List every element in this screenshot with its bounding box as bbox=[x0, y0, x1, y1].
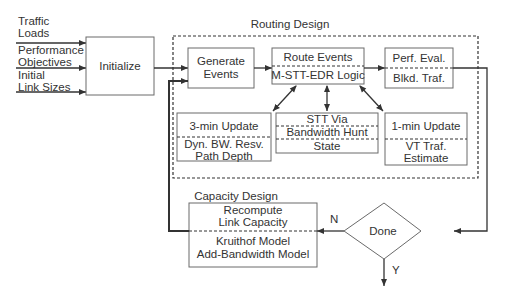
one-min-update-box: 1-min Update VT Traf. Estimate bbox=[385, 113, 467, 165]
svg-text:Link Capacity: Link Capacity bbox=[218, 216, 287, 228]
svg-text:Routing Design: Routing Design bbox=[251, 18, 330, 30]
svg-text:Generate: Generate bbox=[197, 55, 245, 67]
svg-text:Initialize: Initialize bbox=[99, 60, 141, 72]
svg-text:M-STT-EDR Logic: M-STT-EDR Logic bbox=[271, 69, 365, 81]
perf-eval-box: Perf. Eval. Blkd. Traf. bbox=[385, 48, 453, 88]
svg-text:VT Traf.: VT Traf. bbox=[406, 140, 447, 152]
svg-text:Loads: Loads bbox=[18, 27, 50, 39]
initialize-box: Initialize bbox=[86, 37, 154, 95]
svg-text:Dyn. BW. Resv.: Dyn. BW. Resv. bbox=[184, 138, 264, 150]
svg-text:Kruithof Model: Kruithof Model bbox=[216, 235, 290, 247]
svg-text:Capacity Design: Capacity Design bbox=[194, 190, 278, 202]
svg-text:Estimate: Estimate bbox=[404, 152, 449, 164]
input-performance-objectives: Performance Objectives bbox=[16, 44, 86, 68]
arrow-route-3min bbox=[273, 86, 296, 111]
svg-text:Done: Done bbox=[369, 225, 397, 237]
svg-text:Path Depth: Path Depth bbox=[195, 150, 253, 162]
svg-text:Route Events: Route Events bbox=[283, 51, 352, 63]
svg-text:Events: Events bbox=[203, 68, 238, 80]
svg-text:Objectives: Objectives bbox=[18, 56, 72, 68]
input-initial-link-sizes: Initial Link Sizes bbox=[16, 69, 86, 93]
svg-text:Initial: Initial bbox=[18, 69, 45, 81]
svg-text:Recompute: Recompute bbox=[224, 204, 283, 216]
svg-text:Bandwidth Hunt: Bandwidth Hunt bbox=[286, 126, 368, 138]
svg-text:3-min Update: 3-min Update bbox=[189, 120, 258, 132]
capacity-design-box: Capacity Design Recompute Link Capacity … bbox=[189, 190, 317, 267]
input-traffic-loads: Traffic Loads bbox=[16, 15, 86, 43]
generate-events-box: Generate Events bbox=[188, 48, 254, 88]
arrow-route-1min bbox=[360, 86, 383, 111]
svg-text:STT Via: STT Via bbox=[306, 113, 348, 125]
flow-diagram: Traffic Loads Performance Objectives Ini… bbox=[0, 0, 507, 303]
svg-text:1-min Update: 1-min Update bbox=[391, 120, 460, 132]
no-label: N bbox=[330, 213, 338, 225]
done-decision: Done bbox=[344, 203, 421, 259]
svg-text:Link Sizes: Link Sizes bbox=[18, 81, 71, 93]
svg-text:Add-Bandwidth Model: Add-Bandwidth Model bbox=[197, 248, 310, 260]
svg-text:Blkd. Traf.: Blkd. Traf. bbox=[393, 72, 445, 84]
yes-label: Y bbox=[392, 264, 400, 276]
svg-text:Perf. Eval.: Perf. Eval. bbox=[392, 52, 445, 64]
svg-text:Traffic: Traffic bbox=[18, 15, 50, 27]
stt-via-box: STT Via Bandwidth Hunt State bbox=[276, 113, 378, 153]
svg-text:Performance: Performance bbox=[18, 44, 84, 56]
route-events-box: Route Events M-STT-EDR Logic bbox=[271, 48, 365, 84]
svg-text:State: State bbox=[314, 140, 341, 152]
three-min-update-box: 3-min Update Dyn. BW. Resv. Path Depth bbox=[177, 113, 271, 162]
